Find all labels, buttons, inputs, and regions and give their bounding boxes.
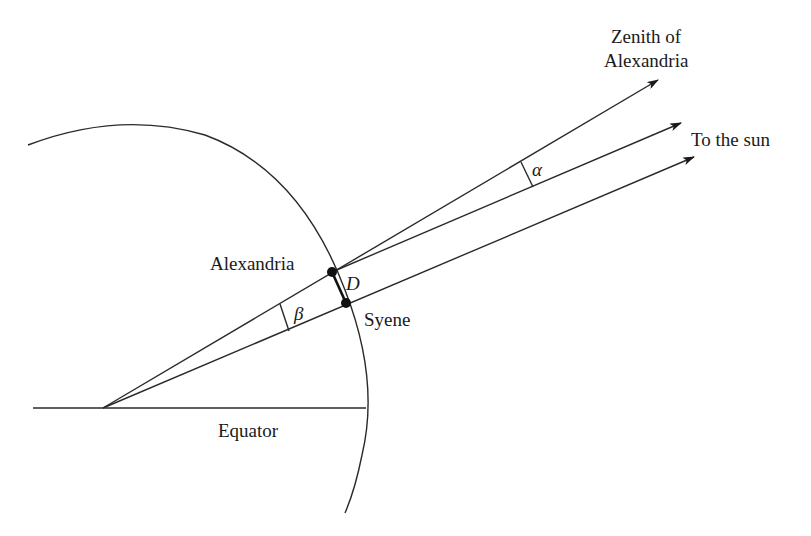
sun-ray-syene (103, 157, 694, 408)
alexandria-point (327, 267, 337, 277)
alpha-label: α (532, 159, 543, 180)
syene-label: Syene (364, 309, 410, 330)
earth-arc (28, 125, 368, 513)
beta-angle-mark (280, 304, 289, 331)
beta-label: β (293, 303, 304, 324)
distance-label: D (345, 273, 360, 294)
sun-label: To the sun (691, 129, 770, 150)
zenith-ray (103, 80, 658, 408)
zenith-label-line2: Alexandria (604, 50, 689, 71)
eratosthenes-diagram: Zenith of Alexandria To the sun Alexandr… (0, 0, 811, 536)
sun-ray-alexandria (332, 123, 681, 272)
syene-point (341, 298, 351, 308)
equator-label: Equator (218, 420, 279, 441)
zenith-label-line1: Zenith of (611, 26, 682, 47)
alexandria-label: Alexandria (210, 253, 295, 274)
